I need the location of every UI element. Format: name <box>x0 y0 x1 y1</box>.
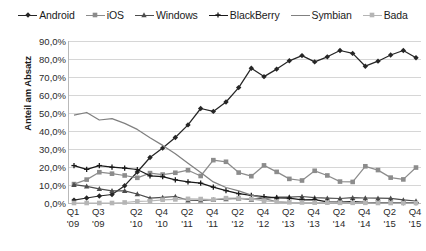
data-point-marker <box>274 199 279 204</box>
data-point-marker <box>186 168 191 173</box>
data-point-marker <box>223 188 228 193</box>
y-tick-label: 90,0% <box>39 36 66 47</box>
x-tick-label: Q4'11 <box>206 206 219 229</box>
data-point-marker <box>287 196 292 201</box>
data-point-marker <box>97 163 102 168</box>
data-point-marker <box>414 165 419 170</box>
legend-item-blackberry[interactable]: BlackBerry <box>209 10 280 21</box>
data-point-marker <box>224 196 229 201</box>
data-point-marker <box>312 59 317 64</box>
legend-label: BlackBerry <box>230 10 280 21</box>
data-point-marker <box>312 200 317 205</box>
data-point-marker <box>414 201 419 206</box>
y-tick-label: 70,0% <box>39 72 66 83</box>
data-point-marker <box>363 164 368 169</box>
x-tick-label: Q2'15 <box>383 206 396 229</box>
data-point-marker <box>224 159 229 164</box>
data-point-marker <box>376 168 381 173</box>
data-point-marker <box>413 55 418 60</box>
y-axis-tick-labels: 90,0%80,0%70,0%60,0%50,0%40,0%30,0%20,0%… <box>22 34 66 209</box>
series-line <box>74 160 416 184</box>
legend-marker-icon <box>86 10 105 20</box>
data-point-marker <box>401 48 406 53</box>
series-layer <box>69 41 421 203</box>
legend-item-symbian[interactable]: Symbian <box>291 10 352 21</box>
data-point-marker <box>109 165 114 170</box>
data-point-marker <box>401 177 406 182</box>
data-point-marker <box>262 163 267 168</box>
x-tick-label: Q4'12 <box>257 206 270 229</box>
legend-item-ios[interactable]: iOS <box>86 10 124 21</box>
data-point-marker <box>388 52 393 57</box>
data-point-marker <box>97 170 102 175</box>
data-point-marker <box>287 177 292 182</box>
data-point-marker <box>299 53 304 58</box>
legend-marker-icon <box>291 10 310 20</box>
legend-item-android[interactable]: Android <box>18 10 75 21</box>
series-ios <box>72 158 419 187</box>
data-point-marker <box>350 201 355 206</box>
x-tick-label: Q4'10 <box>155 206 168 229</box>
data-point-marker <box>148 199 153 204</box>
x-tick-label: Q4'15 <box>409 206 422 229</box>
data-point-marker <box>337 48 342 53</box>
market-share-line-chart: AndroidiOSWindowsBlackBerrySymbianBada A… <box>0 0 426 251</box>
legend-marker-icon <box>209 10 228 20</box>
y-tick-label: 0,0% <box>44 198 66 209</box>
data-point-marker <box>135 199 140 204</box>
data-point-marker <box>262 199 267 204</box>
data-point-marker <box>173 197 178 202</box>
data-point-marker <box>388 201 393 206</box>
y-tick-label: 10,0% <box>39 180 66 191</box>
data-point-marker <box>363 201 368 206</box>
y-tick-label: 60,0% <box>39 90 66 101</box>
data-point-marker <box>388 175 393 180</box>
data-point-marker <box>97 201 102 206</box>
legend-label: Windows <box>156 10 198 21</box>
data-point-marker <box>84 177 89 182</box>
y-tick-label: 30,0% <box>39 144 66 155</box>
data-point-marker <box>93 13 98 18</box>
x-tick-label: Q2'11 <box>181 206 194 229</box>
data-point-marker <box>173 170 178 175</box>
data-point-marker <box>122 200 127 205</box>
plot-area <box>68 41 421 204</box>
legend-marker-icon <box>18 10 37 20</box>
chart-legend: AndroidiOSWindowsBlackBerrySymbianBada <box>0 10 426 21</box>
data-point-marker <box>186 197 191 202</box>
x-tick-label: Q2'10 <box>130 206 143 229</box>
y-tick-label: 20,0% <box>39 162 66 173</box>
x-tick-label: Q2'14 <box>333 206 346 229</box>
data-point-marker <box>25 13 30 18</box>
legend-item-bada[interactable]: Bada <box>363 10 408 21</box>
data-point-marker <box>198 181 203 186</box>
x-tick-label: Q1'09 <box>67 206 80 229</box>
data-point-marker <box>274 170 279 175</box>
data-point-marker <box>185 179 190 184</box>
data-point-marker <box>350 180 355 185</box>
data-point-marker <box>376 201 381 206</box>
data-point-marker <box>122 165 127 170</box>
data-point-marker <box>211 158 216 163</box>
legend-label: Bada <box>384 10 408 21</box>
data-point-marker <box>71 163 76 168</box>
data-point-marker <box>312 168 317 173</box>
data-point-marker <box>375 58 380 63</box>
data-point-marker <box>236 170 241 175</box>
data-point-marker <box>401 201 406 206</box>
data-point-marker <box>249 197 254 202</box>
legend-marker-icon <box>363 10 382 20</box>
data-point-marker <box>84 195 89 200</box>
data-point-marker <box>84 201 89 206</box>
data-point-marker <box>300 178 305 183</box>
legend-marker-icon <box>135 10 154 20</box>
data-point-marker <box>97 193 102 198</box>
data-point-marker <box>236 196 241 201</box>
data-point-marker <box>72 201 77 206</box>
y-tick-label: 40,0% <box>39 126 66 137</box>
data-point-marker <box>325 54 330 59</box>
legend-item-windows[interactable]: Windows <box>135 10 198 21</box>
data-point-marker <box>370 13 375 18</box>
x-tick-label: Q2'12 <box>231 206 244 229</box>
data-point-marker <box>211 185 216 190</box>
